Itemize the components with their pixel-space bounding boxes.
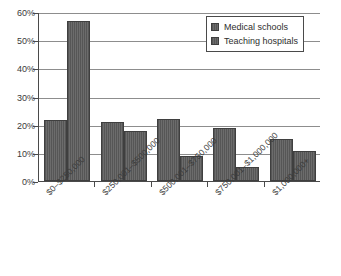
legend-item-medical-schools: Medical schools (211, 20, 298, 34)
bar (293, 151, 316, 181)
bar (236, 167, 259, 181)
bar (44, 120, 67, 181)
bar (157, 119, 180, 181)
x-tick-mark (151, 182, 152, 187)
x-tick-mark (207, 182, 208, 187)
chart-legend: Medical schools Teaching hospitals (206, 16, 304, 52)
bar (101, 122, 124, 181)
legend-item-label: Teaching hospitals (224, 36, 298, 46)
x-axis-ticks (38, 182, 320, 188)
bar (270, 139, 293, 181)
legend-item-label: Medical schools (224, 22, 288, 32)
bar-chart: 0%10%20%30%40%50%60% $0–$250,000$250,001… (0, 0, 341, 276)
bar (180, 156, 203, 181)
legend-item-teaching-hospitals: Teaching hospitals (211, 34, 298, 48)
legend-swatch-icon (211, 23, 219, 31)
x-tick-mark (264, 182, 265, 187)
bar (213, 128, 236, 181)
x-tick-mark (94, 182, 95, 187)
legend-swatch-icon (211, 37, 219, 45)
bar (124, 131, 147, 181)
bar (67, 21, 90, 181)
y-axis-ticks (0, 13, 38, 182)
